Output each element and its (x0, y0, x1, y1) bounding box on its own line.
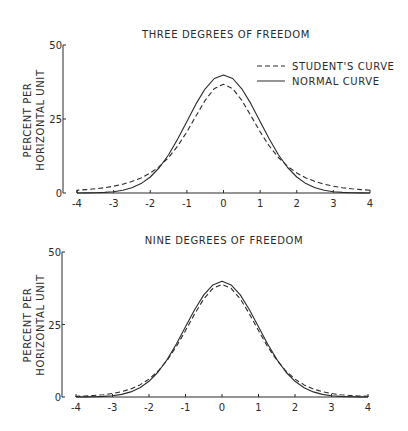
axes: 02550-4-3-2-101234 (48, 247, 371, 413)
x-tick-label: 2 (294, 198, 300, 209)
y-tick-label: 50 (48, 247, 61, 258)
y-tick-label: 50 (49, 40, 62, 51)
x-tick-label: -1 (182, 198, 192, 209)
y-axis-label-line-1: PERCENT PER (22, 288, 33, 363)
x-tick-label: -2 (144, 402, 154, 413)
chart-svg: THREE DEGREES OF FREEDOM PERCENT PER HOR… (0, 0, 408, 431)
x-tick-label: 3 (330, 198, 336, 209)
y-axis-label: PERCENT PER HORIZONTAL UNIT (22, 69, 46, 171)
x-tick-label: 0 (219, 402, 225, 413)
y-tick-label: 0 (55, 392, 61, 403)
curves (77, 75, 370, 193)
chart-title: NINE DEGREES OF FREEDOM (145, 235, 303, 246)
x-tick-label: 1 (257, 198, 263, 209)
legend-normal-label: NORMAL CURVE (292, 76, 380, 87)
chart-figure: THREE DEGREES OF FREEDOM PERCENT PER HOR… (0, 0, 408, 431)
x-tick-label: -1 (181, 402, 191, 413)
normal-curve (77, 75, 370, 193)
x-tick-label: -3 (108, 402, 118, 413)
legend: STUDENT'S CURVE NORMAL CURVE (257, 61, 395, 87)
curves (76, 281, 368, 397)
x-tick-label: -4 (72, 198, 82, 209)
x-tick-label: -4 (71, 402, 81, 413)
x-tick-label: -2 (145, 198, 155, 209)
x-tick-label: 2 (292, 402, 298, 413)
y-axis-label-line-2: HORIZONTAL UNIT (35, 274, 46, 376)
x-tick-label: -3 (109, 198, 119, 209)
students-curve (76, 285, 368, 398)
y-axis-label-line-2: HORIZONTAL UNIT (35, 69, 46, 171)
y-axis-label-line-1: PERCENT PER (22, 83, 33, 158)
students-curve (77, 84, 370, 193)
legend-student-label: STUDENT'S CURVE (292, 61, 395, 72)
normal-curve (76, 281, 368, 397)
y-axis-label: PERCENT PER HORIZONTAL UNIT (22, 274, 46, 376)
x-tick-label: 4 (367, 198, 373, 209)
chart-title: THREE DEGREES OF FREEDOM (141, 29, 310, 40)
x-tick-label: 3 (328, 402, 334, 413)
chart-panel-three-df: THREE DEGREES OF FREEDOM PERCENT PER HOR… (22, 29, 395, 209)
y-tick-label: 25 (48, 320, 61, 331)
y-tick-label: 0 (56, 188, 62, 199)
chart-panel-nine-df: NINE DEGREES OF FREEDOM PERCENT PER HORI… (22, 235, 371, 413)
x-tick-label: 0 (220, 198, 226, 209)
y-tick-label: 25 (49, 114, 62, 125)
x-tick-label: 1 (255, 402, 261, 413)
x-tick-label: 4 (365, 402, 371, 413)
